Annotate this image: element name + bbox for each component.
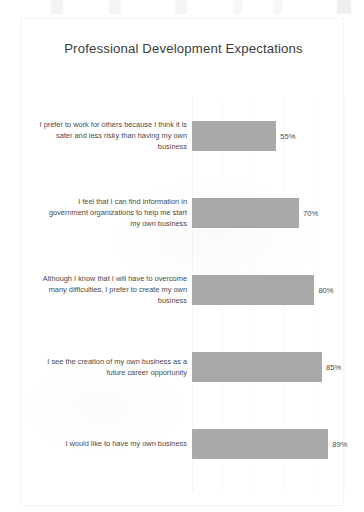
chart-title: Professional Development Expectations xyxy=(22,41,345,56)
category-label: I would like to have my own business xyxy=(39,438,187,449)
bar-data-label: 80% xyxy=(314,285,333,294)
bar-row: I see the creation of my own business as… xyxy=(22,328,345,405)
bar-track: 55% xyxy=(192,121,345,151)
category-label: I prefer to work for others because I th… xyxy=(39,119,187,153)
bar-track: 70% xyxy=(192,198,345,228)
bar-data-label: 89% xyxy=(328,439,347,448)
bar-row: I feel that I can find information in go… xyxy=(22,174,345,251)
scan-edge-artifact xyxy=(0,0,364,14)
bar-track: 89% xyxy=(192,429,345,459)
bar-data-label: 85% xyxy=(322,362,341,371)
bar[interactable] xyxy=(192,121,276,151)
category-label: I see the creation of my own business as… xyxy=(39,355,187,377)
category-label: Although I know that I will have to over… xyxy=(39,273,187,307)
bar-data-label: 55% xyxy=(276,131,295,140)
bar-row: I would like to have my own business 89% xyxy=(22,405,345,482)
bar[interactable] xyxy=(192,275,314,305)
bar[interactable] xyxy=(192,429,328,459)
bar[interactable] xyxy=(192,352,322,382)
bar-track: 80% xyxy=(192,275,345,305)
category-label: I feel that I can find information in go… xyxy=(39,196,187,230)
chart-frame: Professional Development Expectations I … xyxy=(21,18,344,506)
bar-data-label: 70% xyxy=(299,208,318,217)
bar-row: Although I know that I will have to over… xyxy=(22,251,345,328)
bar-row: I prefer to work for others because I th… xyxy=(22,97,345,174)
bar[interactable] xyxy=(192,198,299,228)
bar-track: 85% xyxy=(192,352,345,382)
